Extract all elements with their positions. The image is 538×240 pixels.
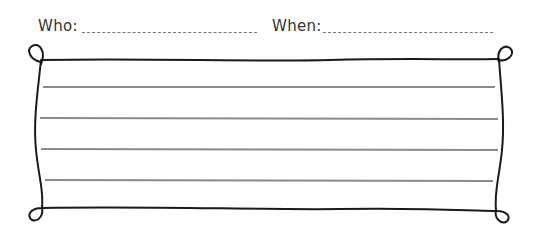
scroll-frame [0,0,538,240]
frame-left-edge [35,60,42,208]
bottom-right-loop-icon [494,209,509,222]
frame-top-edge [42,59,498,61]
frame-right-edge [496,59,504,211]
top-right-loop-icon [498,47,512,62]
top-left-loop-icon [29,45,43,64]
writing-line [45,180,493,181]
frame-bottom-edge [42,207,497,211]
bottom-left-loop-icon [29,206,44,220]
writing-line [41,149,498,150]
writing-line [40,118,498,119]
